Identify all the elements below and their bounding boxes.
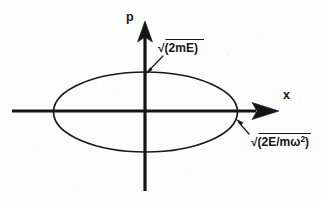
figure-background [0,0,325,202]
figure-canvas: p x √(2mE) √(2E/mω2) [0,0,325,202]
p-axis-label: p [126,10,134,24]
x-intercept-text-close: ) [305,135,309,149]
x-intercept-text-group: √(2E/mω2) [251,134,309,150]
x-intercept-text-main: √(2E/mω [251,135,300,149]
x-axis-label: x [283,88,290,102]
phase-space-figure: p x √(2mE) √(2E/mω2) [0,0,325,202]
p-intercept-text: √(2mE) [158,41,198,55]
annotation-p-intercept: √(2mE) [158,40,204,56]
